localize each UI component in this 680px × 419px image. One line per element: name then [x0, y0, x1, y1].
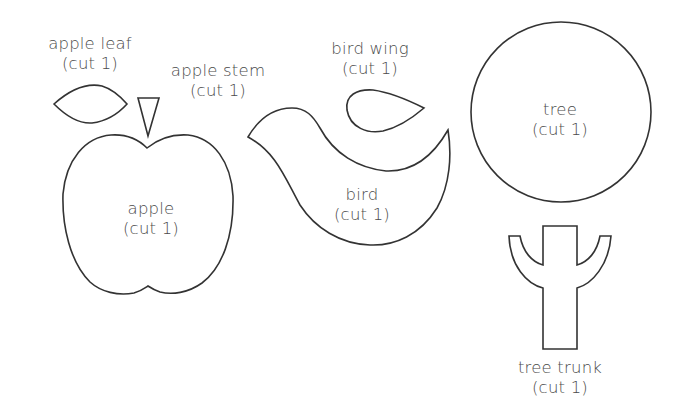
bird-wing-label: bird wing (cut 1) — [310, 39, 430, 79]
apple-stem-quantity: (cut 1) — [158, 81, 278, 101]
bird-wing-name: bird wing — [310, 39, 430, 59]
apple-name: apple — [106, 199, 196, 219]
tree-name: tree — [515, 100, 605, 120]
apple-stem-shape — [138, 98, 159, 136]
apple-stem-label: apple stem (cut 1) — [158, 61, 278, 101]
apple-quantity: (cut 1) — [106, 219, 196, 239]
bird-label: bird (cut 1) — [317, 185, 407, 225]
apple-label: apple (cut 1) — [106, 199, 196, 239]
apple-stem-name: apple stem — [158, 61, 278, 81]
apple-leaf-shape — [54, 85, 127, 123]
apple-leaf-quantity: (cut 1) — [30, 54, 150, 74]
bird-wing-shape — [347, 90, 424, 132]
apple-leaf-name: apple leaf — [30, 34, 150, 54]
bird-name: bird — [317, 185, 407, 205]
bird-wing-quantity: (cut 1) — [310, 59, 430, 79]
bird-quantity: (cut 1) — [317, 205, 407, 225]
tree-trunk-label: tree trunk (cut 1) — [500, 358, 620, 398]
tree-trunk-shape — [509, 226, 611, 349]
tree-label: tree (cut 1) — [515, 100, 605, 140]
apple-leaf-label: apple leaf (cut 1) — [30, 34, 150, 74]
tree-quantity: (cut 1) — [515, 120, 605, 140]
cutout-template-canvas: apple leaf (cut 1) apple stem (cut 1) ap… — [0, 0, 680, 419]
tree-trunk-quantity: (cut 1) — [500, 378, 620, 398]
tree-trunk-name: tree trunk — [500, 358, 620, 378]
